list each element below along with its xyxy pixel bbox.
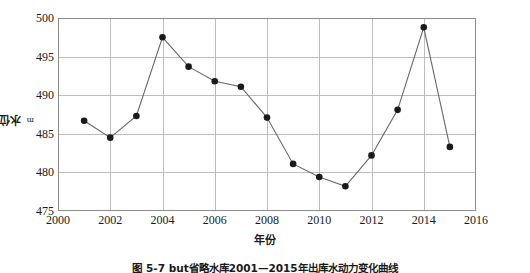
data-point [185, 63, 192, 70]
line-chart-svg [58, 18, 476, 211]
data-point [159, 34, 166, 41]
x-axis-tick-label: 2002 [90, 213, 130, 227]
data-point [316, 174, 323, 181]
data-point [107, 134, 114, 141]
data-point [81, 117, 88, 124]
x-axis-tick-label: 2014 [404, 213, 444, 227]
data-point [342, 183, 349, 190]
data-point [420, 24, 427, 31]
y-axis-tick-label: 495 [8, 51, 54, 63]
figure-caption: 图 5-7 but省略水库2001—2015年出库水动力变化曲线 [0, 260, 530, 273]
data-point [264, 114, 271, 121]
data-point [368, 152, 375, 159]
x-axis-title: 年份 [0, 231, 530, 247]
data-point [238, 83, 245, 90]
x-axis-tick-label: 2016 [456, 213, 496, 227]
data-point [394, 107, 401, 114]
x-axis-tick-label: 2000 [38, 213, 78, 227]
x-axis-tick-label: 2008 [247, 213, 287, 227]
x-axis-tick-labels: 200020022004200620082010201220142016 [58, 213, 476, 229]
y-axis-tick-label: 500 [8, 12, 54, 24]
y-axis-tick-label: 490 [8, 89, 54, 101]
data-point [447, 144, 454, 151]
data-point [211, 78, 218, 85]
x-axis-tick-label: 2004 [143, 213, 183, 227]
data-point [133, 113, 140, 120]
y-axis-tick-label: 480 [8, 166, 54, 178]
y-axis-tick-labels: 475480485490495500 [4, 18, 54, 211]
data-point-markers [81, 24, 453, 190]
plot-area [58, 18, 476, 211]
x-axis-tick-label: 2006 [195, 213, 235, 227]
data-point [290, 161, 297, 168]
data-line [84, 27, 450, 186]
x-axis-tick-label: 2010 [299, 213, 339, 227]
x-axis-tick-label: 2012 [352, 213, 392, 227]
figure-water-level-line-chart: 水位 /m 475480485490495500 200020022004200… [0, 0, 530, 273]
y-axis-tick-label: 485 [8, 128, 54, 140]
